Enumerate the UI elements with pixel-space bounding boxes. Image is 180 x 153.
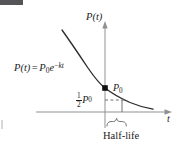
y-axis-label: P(t) [86, 12, 102, 23]
equation-label: P(t)=P0e−kt [14, 62, 64, 75]
equation-exponent-rate: kt [58, 61, 63, 70]
halflife-caption: Half-life [103, 131, 139, 142]
x-axis-label: t [167, 114, 170, 124]
x-axis [36, 109, 172, 114]
half-p0-subscript: 0 [88, 97, 92, 104]
equation-function: P(t) [14, 62, 30, 73]
halflife-brace [107, 118, 126, 126]
one-half-fraction: 12 [76, 92, 82, 109]
fraction-denominator: 2 [76, 101, 82, 108]
p0-label: P0 [113, 83, 123, 95]
p0-subscript: 0 [119, 87, 123, 95]
fraction-numerator: 1 [76, 92, 82, 99]
half-p0-label: 12P0 [76, 92, 92, 109]
half-value-guide [105, 100, 124, 112]
graph-canvas [0, 0, 180, 153]
equation-equals: = [30, 62, 39, 73]
p0-point-marker [102, 85, 108, 91]
exponential-decay-figure: P(t) t P(t)=P0e−kt P0 12P0 Half-life [0, 0, 180, 153]
